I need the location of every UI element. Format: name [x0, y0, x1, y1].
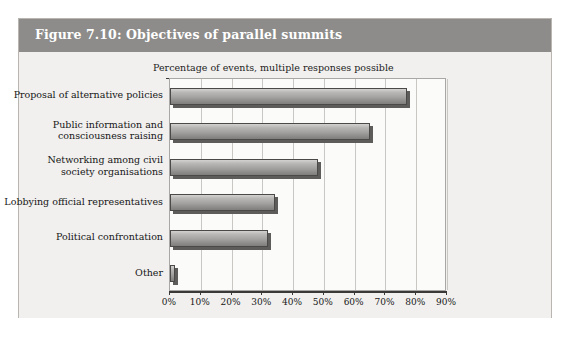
x-tick-label: 30% [251, 297, 271, 307]
x-tick [323, 291, 324, 295]
bar-row [170, 228, 274, 264]
category-label: Other [0, 267, 163, 279]
figure-title: Figure 7.10: Objectives of parallel summ… [35, 27, 342, 42]
bar-row [170, 121, 376, 157]
x-tick-label: 60% [344, 297, 364, 307]
bar [170, 88, 407, 105]
bar-row [170, 157, 324, 193]
category-label-line: Political confrontation [0, 231, 163, 243]
x-tick [261, 291, 262, 295]
category-label-line: society organisations [0, 166, 163, 178]
x-tick [446, 291, 447, 295]
x-tick [292, 291, 293, 295]
category-label: Networking among civilsociety organisati… [0, 154, 163, 177]
x-tick-label: 80% [405, 297, 425, 307]
bar [170, 123, 370, 140]
bar-row [170, 263, 181, 299]
bar-row [170, 86, 413, 122]
bar [170, 230, 268, 247]
plot-area [169, 78, 446, 291]
x-axis-line [169, 291, 446, 293]
x-tick [169, 291, 170, 295]
category-label-line: Public information and [0, 119, 163, 131]
x-tick [384, 291, 385, 295]
chart-body: Percentage of events, multiple responses… [19, 52, 551, 318]
x-tick [354, 291, 355, 295]
figure-card: Figure 7.10: Objectives of parallel summ… [18, 18, 552, 318]
x-tick [200, 291, 201, 295]
bar [170, 265, 175, 282]
x-tick [415, 291, 416, 295]
gridline-90% [447, 79, 448, 290]
category-label-line: Other [0, 267, 163, 279]
category-label: Lobbying official representatives [0, 196, 163, 208]
category-label-line: Lobbying official representatives [0, 196, 163, 208]
figure-header-bar: Figure 7.10: Objectives of parallel summ… [19, 19, 551, 52]
x-tick-label: 10% [190, 297, 210, 307]
bar [170, 194, 275, 211]
x-tick-label: 0% [162, 297, 176, 307]
bar-row [170, 192, 281, 228]
category-label: Political confrontation [0, 231, 163, 243]
x-tick-label: 20% [221, 297, 241, 307]
gridline-80% [416, 79, 417, 290]
x-tick-label: 40% [282, 297, 302, 307]
x-tick [231, 291, 232, 295]
category-label-line: Proposal of alternative policies [0, 89, 163, 101]
category-label-line: consciousness raising [0, 130, 163, 142]
category-label-line: Networking among civil [0, 154, 163, 166]
category-label: Proposal of alternative policies [0, 89, 163, 101]
category-label: Public information andconsciousness rais… [0, 119, 163, 142]
chart-subtitle: Percentage of events, multiple responses… [153, 62, 394, 73]
x-tick-label: 50% [313, 297, 333, 307]
x-tick-label: 90% [436, 297, 456, 307]
bar [170, 159, 318, 176]
x-tick-label: 70% [374, 297, 394, 307]
